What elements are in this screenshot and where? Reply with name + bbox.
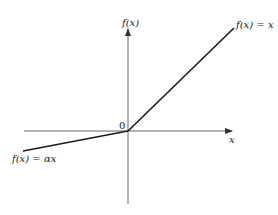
positive-branch-label: f(x) = x: [235, 19, 274, 30]
leaky-relu-diagram: f(x) x 0 f(x) = x f(x) = αx: [0, 0, 278, 215]
origin-label: 0: [119, 120, 125, 131]
x-axis-label: x: [229, 134, 235, 145]
y-axis-label: f(x): [121, 17, 139, 28]
negative-branch-line: [23, 131, 128, 151]
negative-branch-label: f(x) = αx: [11, 153, 57, 164]
positive-branch-line: [128, 28, 234, 131]
